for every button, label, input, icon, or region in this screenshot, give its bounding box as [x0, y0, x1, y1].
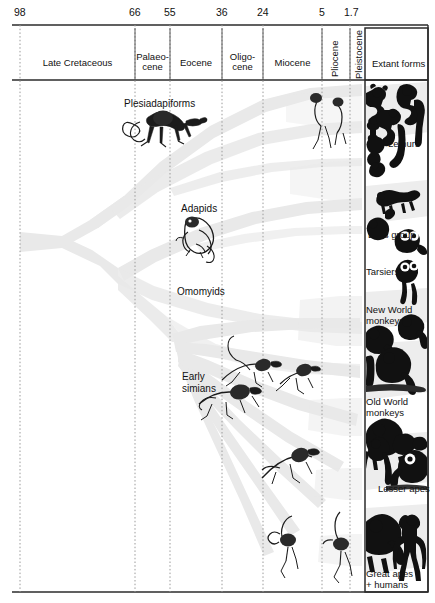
epoch-label-palaeocene: Palaeo- cene [135, 52, 170, 73]
taxon-label-adapids: Adapids [181, 203, 217, 215]
axis-tick-55: 55 [164, 7, 176, 18]
hominoid-sketch-right [323, 512, 352, 583]
early-simian-sketch-upper [222, 336, 282, 387]
extant-label-old-world-monkeys: Old World monkeys [366, 397, 408, 418]
axis-tick-5: 5 [319, 7, 325, 18]
extant-label-loris-group: Loris group [368, 230, 416, 241]
plesiadapiform-sketch [123, 111, 208, 148]
adapid-sketch [176, 217, 214, 263]
epoch-label-late-cretaceous: Late Cretaceous [20, 58, 135, 68]
taxon-label-omomyids: Omomyids [177, 286, 225, 298]
axis-tick-1-7: 1.7 [344, 7, 359, 18]
primate-evolution-figure: 98 66 55 36 24 5 1.7 Late Cretaceous Pal… [0, 0, 435, 603]
early-simian-sketch-right [276, 362, 321, 394]
taxon-label-plesiadapiforms: Plesiadapiforms [124, 98, 195, 110]
early-primate-sketch-top-right [310, 93, 346, 149]
epoch-label-miocene: Miocene [263, 58, 322, 68]
taxon-label-early-simians: Early simians [182, 371, 216, 394]
axis-tick-24: 24 [257, 7, 269, 18]
epoch-label-pliocene: Pliocene [330, 31, 340, 77]
miocene-ape-sketch [262, 445, 320, 484]
extant-label-lemurs: Lemurs [388, 139, 420, 150]
extant-label-great-apes-humans: Great apes + humans [366, 569, 413, 590]
epoch-label-pleistocene: Pleistocene [354, 29, 364, 79]
extant-label-new-world-monkeys: New World monkeys [366, 305, 412, 326]
hominoid-sketch-left [268, 516, 298, 578]
axis-tick-66: 66 [129, 7, 141, 18]
extant-label-lesser-apes: Lesser apes [378, 484, 430, 495]
fossil-taxa-artwork [0, 0, 435, 603]
extant-forms-panel-title: Extant forms [372, 58, 425, 69]
epoch-label-eocene: Eocene [170, 58, 222, 68]
axis-tick-98: 98 [14, 7, 26, 18]
axis-tick-36: 36 [216, 7, 228, 18]
extant-label-tarsiers: Tarsiers [366, 267, 399, 278]
epoch-label-oligocene: Oligo- cene [222, 52, 263, 73]
